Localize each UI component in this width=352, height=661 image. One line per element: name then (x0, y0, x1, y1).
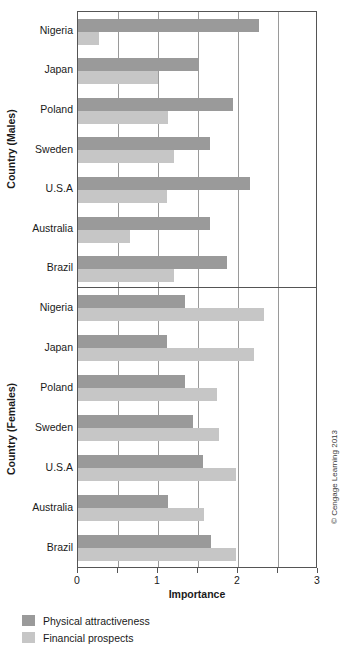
bar-physical-attractiveness (78, 495, 168, 508)
category-label: Brazil (20, 261, 73, 273)
category-label: U.S.A (20, 461, 73, 473)
category-label: Japan (20, 63, 73, 75)
bar-row (78, 91, 316, 131)
bar-physical-attractiveness (78, 217, 210, 230)
x-minor-tick-mark (277, 568, 278, 573)
bar-rows-females (78, 288, 316, 567)
bar-physical-attractiveness (78, 137, 210, 150)
x-tick-mark (157, 568, 158, 573)
bar-financial-prospects (78, 71, 158, 84)
bar-row (78, 12, 316, 52)
category-label: Australia (20, 501, 73, 513)
category-label: Japan (20, 341, 73, 353)
bar-financial-prospects (78, 548, 236, 561)
x-minor-tick-mark (117, 568, 118, 573)
legend-swatch-icon (22, 615, 35, 626)
bar-physical-attractiveness (78, 455, 203, 468)
bar-row (78, 328, 316, 368)
bar-physical-attractiveness (78, 535, 211, 548)
x-tick-label: 2 (234, 574, 240, 586)
legend-item[interactable]: Financial prospects (22, 629, 150, 646)
plot-panel-males (77, 11, 317, 288)
bar-row (78, 528, 316, 568)
category-label: Poland (20, 381, 73, 393)
legend-swatch-icon (22, 632, 35, 643)
bar-financial-prospects (78, 111, 168, 124)
y-axis-title-females-text: Country (Females) (5, 383, 17, 475)
bar-row (78, 170, 316, 210)
category-labels-females: NigeriaJapanPolandSwedenU.S.AAustraliaBr… (18, 288, 73, 568)
bar-chart: Country (Males) Country (Females) Nigeri… (0, 0, 352, 661)
category-label: Brazil (20, 541, 73, 553)
category-label: Nigeria (20, 24, 73, 36)
legend-label: Physical attractiveness (43, 615, 150, 627)
bar-physical-attractiveness (78, 19, 259, 32)
bar-physical-attractiveness (78, 375, 185, 388)
x-tick-mark (77, 568, 78, 573)
bar-row (78, 210, 316, 250)
bar-physical-attractiveness (78, 98, 233, 111)
category-label: Nigeria (20, 301, 73, 313)
bar-financial-prospects (78, 388, 217, 401)
copyright-credit: © Cengage Learning 2013 (330, 430, 339, 524)
x-tick-mark (237, 568, 238, 573)
bar-physical-attractiveness (78, 177, 250, 190)
bar-financial-prospects (78, 308, 264, 321)
bar-financial-prospects (78, 150, 174, 163)
bar-row (78, 52, 316, 92)
y-axis-title-males-text: Country (Males) (5, 109, 17, 188)
bar-physical-attractiveness (78, 295, 185, 308)
bar-financial-prospects (78, 230, 130, 243)
legend-label: Financial prospects (43, 632, 133, 644)
category-labels-males: NigeriaJapanPolandSwedenU.S.AAustraliaBr… (18, 11, 73, 288)
bar-row (78, 488, 316, 528)
bar-financial-prospects (78, 468, 236, 481)
bar-financial-prospects (78, 269, 174, 282)
bar-row (78, 288, 316, 328)
bar-financial-prospects (78, 190, 167, 203)
x-minor-tick-mark (197, 568, 198, 573)
category-label: Sweden (20, 421, 73, 433)
bar-physical-attractiveness (78, 335, 167, 348)
bar-row (78, 448, 316, 488)
bar-row (78, 368, 316, 408)
x-tick-label: 0 (74, 574, 80, 586)
bar-physical-attractiveness (78, 415, 193, 428)
x-tick-mark (317, 568, 318, 573)
x-axis-ticks: 0123 (77, 568, 317, 588)
x-tick-label: 1 (154, 574, 160, 586)
bar-rows-males (78, 12, 316, 287)
x-axis-title: Importance (77, 588, 317, 600)
bar-row (78, 131, 316, 171)
bar-financial-prospects (78, 508, 204, 521)
bar-financial-prospects (78, 348, 254, 361)
bar-physical-attractiveness (78, 58, 198, 71)
bar-physical-attractiveness (78, 256, 227, 269)
bar-row (78, 408, 316, 448)
legend-item[interactable]: Physical attractiveness (22, 612, 150, 629)
category-label: Australia (20, 222, 73, 234)
x-tick-label: 3 (314, 574, 320, 586)
bar-row (78, 249, 316, 289)
category-label: Sweden (20, 143, 73, 155)
bar-financial-prospects (78, 32, 99, 45)
plot-panel-females (77, 288, 317, 568)
category-label: Poland (20, 103, 73, 115)
legend: Physical attractivenessFinancial prospec… (22, 612, 150, 646)
category-label: U.S.A (20, 182, 73, 194)
bar-financial-prospects (78, 428, 219, 441)
